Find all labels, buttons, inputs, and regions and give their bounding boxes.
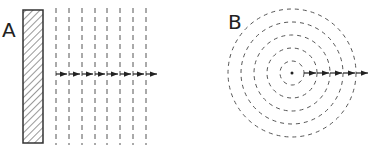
panel-a	[23, 8, 157, 145]
panel-b	[228, 9, 368, 137]
point-source	[291, 72, 294, 75]
wave-diagram	[0, 0, 370, 148]
plane-wavefronts	[56, 8, 146, 145]
plane-source-block	[23, 10, 43, 143]
